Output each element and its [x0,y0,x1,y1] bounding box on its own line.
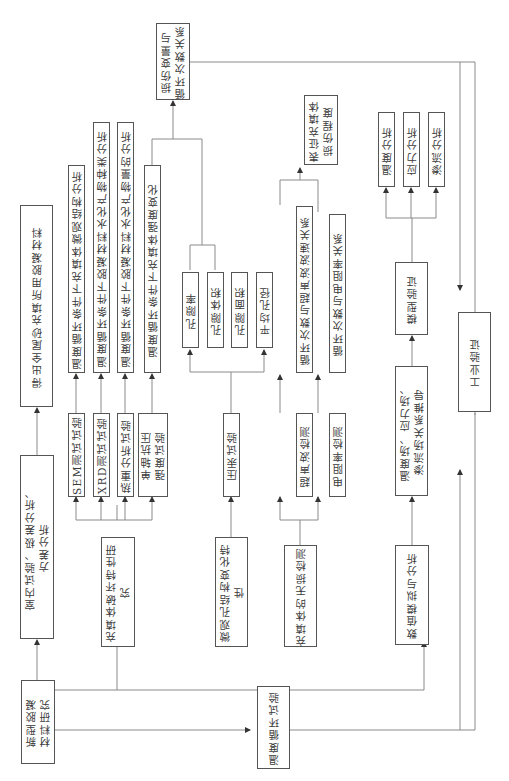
node-label: 平均孔径 [258,285,272,335]
node-label: 得出全尾砂充填所用胶凝材料 [30,225,44,388]
node-label: 热重分析试验 [119,418,133,493]
node-label: 数值模拟与分析 [405,551,419,639]
node-label: 循环次数与电阻率关系 [331,231,345,356]
node-label: 工业验证 [468,337,482,387]
node-ucs-result: 温度循环条件下充填体强度变化 [144,165,161,373]
node-label: 超声波检测 [298,424,312,487]
node-pore-volume: 孔隙体积 [207,272,224,348]
node-damage-study: 充填体破坏特性研究 [101,537,135,647]
node-label: 应力分析 [405,125,419,175]
node-field-derivation: 温度场、应力场、 渗流场关系推导 [395,366,428,496]
node-label: 充填体的无损检测 [294,546,308,646]
node-tg-test: 热重分析试验 [117,413,134,497]
node-label: 新型胶凝 材料研究 [24,697,52,747]
node-label: 孔隙率 [184,291,198,329]
node-ultrasonic: 超声波检测 [296,413,313,497]
node-numerical: 数值模拟与分析 [395,545,429,645]
node-label: 表征充填体 损伤程度 [307,99,335,162]
node-label: 电阻率检测 [331,424,345,487]
node-resistivity-rel: 循环次数与电阻率关系 [329,214,346,373]
node-ultrasonic-rel: 循环次数与超声波波速关系 [296,206,313,373]
node-label: 温度循环试验 [267,690,281,765]
node-label: 孔隙体积 [209,285,223,335]
node-label: 单轴抗压 强度试验 [139,430,167,480]
node-xrd-result: 温度循环条件下胶凝材料水化产物种类分析 [93,122,110,373]
node-label: 温度场、应力场、 渗流场关系推导 [398,381,426,481]
node-label: 温度循环条件下充填体强度变化 [146,182,160,357]
node-micro-pore: 微观孔结构变化特性 [215,537,248,647]
node-avg-pore: 平均孔径 [256,272,273,348]
node-damage-variable: 损伤变量与 循环次数关系 [156,23,190,100]
node-model-verify: 模型验证 [395,262,428,335]
node-label: XRD测试试验 [95,416,109,494]
node-result-material: 得出全尾砂充填所用胶凝材料 [20,205,53,407]
node-resistivity: 电阻率检测 [329,413,346,497]
node-tg-result: 温度循环条件下胶凝材料水化产物量的分析 [117,122,134,373]
node-label: 压汞试验 [225,430,239,480]
node-label: 渗流分析 [430,125,444,175]
node-pore-area: 孔隙面积 [231,272,248,348]
node-label: 模型验证 [405,274,419,324]
node-label: 充填体破坏特性研究 [104,538,132,646]
node-new-material: 新型胶凝 材料研究 [21,680,55,764]
node-ndt: 充填体的无损检测 [284,545,317,647]
node-label: SEM测试试验 [70,415,84,495]
node-label: 孔隙面积 [233,285,247,335]
node-label: 温度循环条件下充填体微观结构分析 [70,169,84,369]
node-temp-analysis: 温度分析 [378,112,395,187]
node-sem-result: 温度循环条件下充填体微观结构分析 [68,165,85,373]
node-lab-test: 室内试验、极差分析、 方差分析 [20,455,54,639]
node-xrd-test: XRD测试试验 [93,413,110,497]
node-label: 微观孔结构变化特性 [218,538,246,646]
node-porosity: 孔隙率 [182,272,199,348]
node-mip-test: 压汞试验 [223,413,240,497]
node-label: 温度循环条件下胶凝材料水化产物量的分析 [119,129,133,367]
node-label: 室内试验、极差分析、 方差分析 [23,485,51,610]
node-damage-degree: 表征充填体 损伤程度 [304,95,338,165]
node-industrial-verify: 工业验证 [458,312,491,412]
node-seepage-analysis: 渗流分析 [428,112,445,187]
node-label: 温度分析 [380,125,394,175]
node-sem-test: SEM测试试验 [68,413,85,497]
node-label: 损伤变量与 循环次数关系 [159,24,187,99]
node-stress-analysis: 应力分析 [403,112,420,187]
node-temp-cycle-test: 温度循环试验 [257,686,290,769]
node-label: 温度循环条件下胶凝材料水化产物种类分析 [95,129,109,367]
node-ucs-test: 单轴抗压 强度试验 [138,413,168,497]
node-label: 循环次数与超声波波速关系 [298,215,312,365]
